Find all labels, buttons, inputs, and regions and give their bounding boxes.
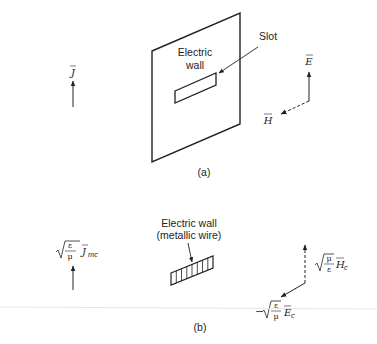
coef-numerator: μ — [326, 254, 331, 263]
wire-pointer-arrow — [188, 243, 192, 262]
e-field-label: E — [304, 56, 313, 67]
caption-b: (b) — [194, 321, 207, 333]
divider-line — [0, 307, 377, 309]
field-axes-a: E H — [263, 55, 314, 126]
e-field-arrow — [281, 283, 305, 297]
current-jmc: ε μ J mc — [56, 241, 98, 290]
coef-denominator: μ — [67, 252, 72, 261]
e-field-label: − ε μ E c — [255, 301, 295, 321]
field-axes-b: μ ε H c − ε μ E c — [255, 245, 348, 321]
slot-pointer-arrow — [219, 47, 258, 73]
current-symbol: J — [80, 246, 87, 257]
plate-label-line1: Electric — [178, 46, 212, 58]
plate-label-line2: wall — [185, 59, 204, 71]
diagram-canvas: Electric wall Slot J E H (a) ε μ — [0, 0, 377, 344]
electric-wall-plate — [152, 13, 240, 162]
slot — [175, 73, 216, 103]
figure-a: Electric wall Slot J E H (a) — [69, 13, 313, 178]
wire-label-line2: (metallic wire) — [157, 229, 222, 241]
h-field-arrow — [281, 101, 309, 114]
coef-denominator: ε — [327, 265, 331, 274]
h-field-label: H — [263, 115, 273, 126]
wire-label-line1: Electric wall — [161, 217, 216, 229]
current-j: J — [69, 66, 76, 107]
slot-label: Slot — [259, 30, 277, 42]
h-subscript: c — [344, 263, 348, 272]
coef-denominator: μ — [273, 312, 278, 321]
current-j-label: J — [69, 67, 76, 78]
h-field-label: μ ε H c — [315, 254, 348, 274]
current-subscript: mc — [88, 250, 98, 259]
coef-numerator: ε — [68, 241, 72, 250]
e-subscript: c — [291, 311, 295, 320]
caption-a: (a) — [198, 166, 211, 178]
figure-b: ε μ J mc Electric wall (metallic wire) — [0, 217, 377, 333]
